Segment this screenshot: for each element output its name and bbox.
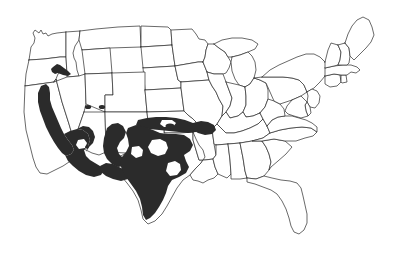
record-dot-colorado (99, 105, 105, 109)
record-dot-four-corners (85, 145, 89, 149)
state-nebraska (143, 66, 181, 90)
state-north-dakota (141, 26, 172, 47)
united-states-map (0, 0, 393, 256)
state-rhode-island (341, 75, 347, 83)
state-south-dakota (141, 45, 175, 68)
state-wyoming (82, 48, 112, 74)
record-dot-utah (85, 105, 91, 109)
record-dot-kansas (166, 123, 175, 128)
distribution-map-figure (0, 0, 393, 256)
state-kansas (145, 88, 184, 112)
